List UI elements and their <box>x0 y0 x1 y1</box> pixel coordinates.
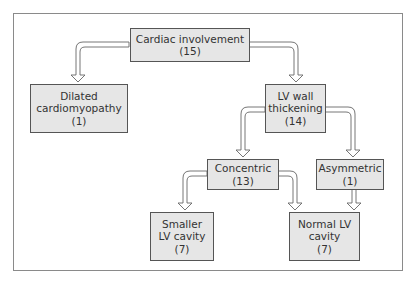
node-label: Asymmetric <box>319 162 382 175</box>
node-normal-lv-cavity: Normal LV cavity (7) <box>289 212 360 261</box>
arrow-asymmetric-to-normal <box>347 189 361 210</box>
node-count: (14) <box>285 115 307 128</box>
arrow-concentric-to-normal <box>278 171 302 210</box>
arrow-lvwall-to-asymmetric <box>325 107 360 157</box>
node-label: LV wall <box>277 90 313 103</box>
arrow-cardiac-to-dilated <box>71 42 129 82</box>
arrow-lvwall-to-concentric <box>236 107 265 157</box>
node-concentric: Concentric (13) <box>207 159 279 190</box>
node-cardiac-involvement: Cardiac involvement (15) <box>130 28 250 62</box>
node-count: (1) <box>72 115 87 128</box>
node-count: (13) <box>232 175 254 188</box>
node-label: Smaller <box>162 218 202 231</box>
node-count: (7) <box>175 243 190 256</box>
node-count: (1) <box>343 175 358 188</box>
node-label: Cardiac involvement <box>136 33 244 46</box>
node-count: (15) <box>179 45 201 58</box>
node-label: Concentric <box>215 162 271 175</box>
node-label: Dilated <box>60 90 98 103</box>
node-smaller-lv-cavity: Smaller LV cavity (7) <box>150 212 214 261</box>
node-label: LV cavity <box>159 230 206 243</box>
node-label: thickening <box>268 102 323 115</box>
node-lv-wall-thickening: LV wall thickening (14) <box>265 84 326 133</box>
node-label: cavity <box>309 230 341 243</box>
node-label: cardiomyopathy <box>36 102 121 115</box>
node-asymmetric: Asymmetric (1) <box>316 159 384 190</box>
node-label: Normal LV <box>298 218 351 231</box>
node-dilated-cardiomyopathy: Dilated cardiomyopathy (1) <box>30 84 128 133</box>
node-count: (7) <box>317 243 332 256</box>
arrow-cardiac-to-lvwall <box>249 42 303 82</box>
arrow-concentric-to-smaller <box>178 171 207 210</box>
